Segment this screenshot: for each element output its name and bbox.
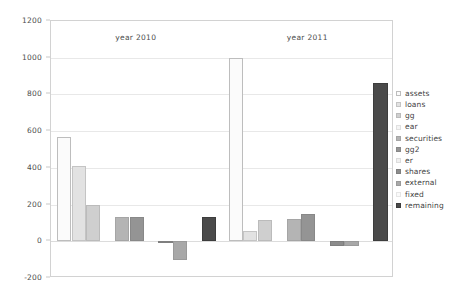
legend-swatch-icon (396, 158, 401, 163)
legend-item-er[interactable]: er (396, 155, 458, 166)
legend-item-assets[interactable]: assets (396, 88, 458, 99)
legend-item-gg[interactable]: gg (396, 110, 458, 121)
legend-label: ear (405, 123, 418, 131)
legend-label: fixed (405, 191, 424, 199)
bar-external-year-2011 (344, 241, 358, 246)
legend-swatch-icon (396, 125, 401, 130)
bar-assets-year-2011 (229, 58, 243, 242)
y-tick-label: 800 (27, 89, 42, 98)
legend-item-shares[interactable]: shares (396, 166, 458, 177)
gridline-600 (51, 131, 392, 132)
legend-item-external[interactable]: external (396, 178, 458, 189)
legend-swatch-icon (396, 91, 401, 96)
bar-gg-year-2011 (258, 220, 272, 241)
legend-label: securities (405, 135, 442, 143)
legend-item-securities[interactable]: securities (396, 133, 458, 144)
bar-shares-year-2011 (330, 241, 344, 246)
bar-assets-year-2010 (57, 137, 71, 242)
bar-gg2-year-2011 (301, 214, 315, 242)
legend-label: external (405, 179, 437, 187)
gridline-200 (51, 205, 392, 206)
bar-remaining-year-2010 (202, 217, 216, 241)
bar-securities-year-2010 (115, 217, 129, 242)
bar-shares-year-2010 (158, 241, 172, 243)
plot-area (50, 20, 393, 277)
bar-loans-year-2011 (243, 231, 257, 241)
y-tick-label: 1000 (22, 52, 42, 61)
legend-swatch-icon (396, 203, 401, 208)
y-tick-label: 0 (37, 236, 42, 245)
bar-gg-year-2010 (86, 205, 100, 242)
legend-item-ear[interactable]: ear (396, 122, 458, 133)
bar-remaining-year-2011 (373, 83, 387, 241)
chart-screenshot: 120010008006004002000-200 year 2010year … (0, 0, 458, 300)
y-tick-label: 1200 (22, 16, 42, 25)
legend-swatch-icon (396, 136, 401, 141)
bar-gg2-year-2010 (130, 217, 144, 242)
bar-securities-year-2011 (287, 219, 301, 241)
legend-swatch-icon (396, 192, 401, 197)
y-tick-label: 600 (27, 126, 42, 135)
legend-label: assets (405, 90, 429, 98)
legend-label: er (405, 157, 413, 165)
group-label-year-2010: year 2010 (115, 33, 156, 42)
bar-loans-year-2010 (72, 166, 86, 241)
y-tick-label: 400 (27, 162, 42, 171)
y-axis: 120010008006004002000-200 (0, 20, 50, 277)
legend-swatch-icon (396, 169, 401, 174)
legend-label: gg (405, 112, 415, 120)
group-label-year-2011: year 2011 (287, 33, 328, 42)
legend-label: remaining (405, 202, 444, 210)
legend-swatch-icon (396, 181, 401, 186)
legend-item-loans[interactable]: loans (396, 99, 458, 110)
legend-item-gg2[interactable]: gg2 (396, 144, 458, 155)
legend-swatch-icon (396, 102, 401, 107)
legend-label: loans (405, 101, 425, 109)
chart-legend: assetsloansggearsecuritiesgg2ersharesext… (396, 88, 458, 211)
gridline-800 (51, 94, 392, 95)
bar-external-year-2010 (173, 241, 187, 259)
y-tick-label: 200 (27, 199, 42, 208)
legend-item-remaining[interactable]: remaining (396, 200, 458, 211)
gridline-1000 (51, 58, 392, 59)
y-tick-label: -200 (24, 273, 42, 282)
gridline-400 (51, 168, 392, 169)
legend-swatch-icon (396, 147, 401, 152)
legend-item-fixed[interactable]: fixed (396, 189, 458, 200)
legend-swatch-icon (396, 113, 401, 118)
legend-label: shares (405, 168, 430, 176)
legend-label: gg2 (405, 146, 420, 154)
